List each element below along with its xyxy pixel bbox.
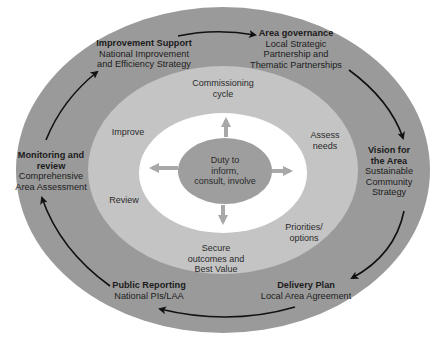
stage-improvement-support: Improvement Support National Improvement… bbox=[94, 38, 194, 70]
stage-title: Vision for bbox=[358, 145, 420, 156]
stage-detail: National PIs/LAA bbox=[104, 291, 194, 302]
stage-priorities-options: Priorities/ options bbox=[280, 222, 328, 243]
stage-line: Improve bbox=[108, 127, 148, 138]
stage-title: the Area bbox=[358, 156, 420, 167]
stage-line: Review bbox=[104, 195, 144, 206]
core-line: inform, bbox=[186, 166, 264, 177]
stage-line: Secure bbox=[176, 243, 256, 254]
stage-title: Public Reporting bbox=[104, 280, 194, 291]
stage-vision-for-the-area: Vision for the Area Sustainable Communit… bbox=[358, 145, 420, 198]
stage-detail: Area Assessment bbox=[12, 182, 90, 193]
stage-detail: Local Area Agreement bbox=[256, 291, 356, 302]
stage-line: Best Value bbox=[176, 264, 256, 275]
stage-line: needs bbox=[302, 141, 348, 152]
stage-review: Review bbox=[104, 195, 144, 206]
stage-public-reporting: Public Reporting National PIs/LAA bbox=[104, 280, 194, 301]
stage-delivery-plan: Delivery Plan Local Area Agreement bbox=[256, 280, 356, 301]
stage-assess-needs: Assess needs bbox=[302, 130, 348, 151]
stage-title: Area governance bbox=[246, 28, 346, 39]
commissioning-cycle-title: Commissioning cycle bbox=[183, 78, 263, 99]
stage-improve: Improve bbox=[108, 127, 148, 138]
stage-detail: Strategy bbox=[358, 187, 420, 198]
stage-detail: and Efficiency Strategy bbox=[94, 59, 194, 70]
stage-monitoring-and-review: Monitoring and review Comprehensive Area… bbox=[12, 150, 90, 192]
stage-title: review bbox=[12, 161, 90, 172]
stage-area-governance: Area governance Local Strategic Partners… bbox=[246, 28, 346, 70]
stage-title: Monitoring and bbox=[12, 150, 90, 161]
stage-secure-outcomes: Secure outcomes and Best Value bbox=[176, 243, 256, 275]
stage-line: options bbox=[280, 233, 328, 244]
stage-line: Assess bbox=[302, 130, 348, 141]
core-duty-to-inform: Duty to inform, consult, involve bbox=[186, 155, 264, 187]
stage-detail: Comprehensive bbox=[12, 171, 90, 182]
core-line: Duty to bbox=[186, 155, 264, 166]
stage-detail: Partnership and bbox=[246, 49, 346, 60]
stage-title: Improvement Support bbox=[94, 38, 194, 49]
stage-detail: National Improvement bbox=[94, 49, 194, 60]
stage-line: Priorities/ bbox=[280, 222, 328, 233]
stage-title: Delivery Plan bbox=[256, 280, 356, 291]
title-line: Commissioning bbox=[183, 78, 263, 89]
title-line: cycle bbox=[183, 89, 263, 100]
stage-detail: Local Strategic bbox=[246, 39, 346, 50]
stage-detail: Sustainable bbox=[358, 166, 420, 177]
core-line: consult, involve bbox=[186, 176, 264, 187]
stage-line: outcomes and bbox=[176, 254, 256, 265]
stage-detail: Thematic Partnerships bbox=[246, 60, 346, 71]
stage-detail: Community bbox=[358, 177, 420, 188]
